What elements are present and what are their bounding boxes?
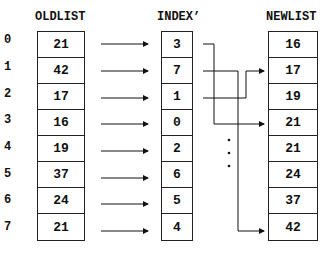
ellipsis-dots	[228, 139, 231, 168]
index-to-newlist-connectors	[203, 44, 264, 231]
arrows-layer	[0, 0, 331, 255]
oldlist-to-index-arrows	[101, 44, 148, 231]
